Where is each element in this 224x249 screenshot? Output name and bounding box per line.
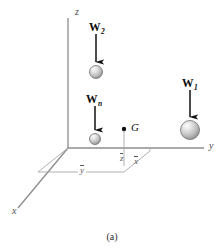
force-Wn-group <box>90 106 101 145</box>
force-label-W1-subscript: 1 <box>194 83 198 92</box>
figure-container: z y x W2 Wn W1 G z x y (a) <box>0 0 224 249</box>
axis-group <box>18 18 204 208</box>
force-label-Wn-subscript: n <box>98 99 102 108</box>
centroid-label-G: G <box>131 122 139 133</box>
y-axis-label: y <box>209 141 213 151</box>
dimension-label-ybar: y <box>78 166 86 175</box>
force-label-Wn-symbol: W <box>86 93 98 105</box>
dimension-label-zbar-text: z <box>120 154 124 163</box>
force-label-W2-symbol: W <box>89 21 101 33</box>
ybar-closing-line <box>38 148 68 172</box>
force-label-W1: W1 <box>182 78 197 90</box>
dimension-label-zbar: z <box>120 154 124 163</box>
mass-sphere-W2 <box>90 66 103 79</box>
dimension-label-xbar-text: x <box>134 157 138 166</box>
centroid-dot-G <box>122 127 126 131</box>
force-W2-group <box>90 34 103 79</box>
x-axis-label: x <box>12 206 16 216</box>
force-label-W2-subscript: 2 <box>101 27 105 36</box>
x-axis-line <box>18 148 68 208</box>
force-label-Wn: Wn <box>86 94 102 106</box>
figure-caption: (a) <box>0 231 224 242</box>
figure-drawing <box>0 0 224 249</box>
dimension-label-ybar-text: y <box>80 166 84 175</box>
z-axis-label: z <box>75 7 79 17</box>
mass-sphere-W1 <box>181 121 200 140</box>
force-label-W1-symbol: W <box>182 77 194 89</box>
mass-sphere-Wn <box>90 134 101 145</box>
force-W1-group <box>181 90 200 140</box>
force-label-W2: W2 <box>89 22 104 34</box>
dimension-label-xbar: x <box>134 157 138 166</box>
